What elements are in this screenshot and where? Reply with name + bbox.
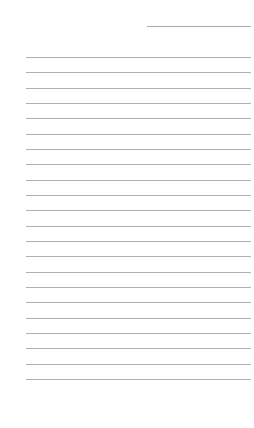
ruled-line <box>26 364 251 365</box>
ruled-line <box>26 57 251 58</box>
ruled-line <box>26 164 251 165</box>
ruled-line <box>26 180 251 181</box>
ruled-line <box>26 272 251 273</box>
ruled-line <box>26 195 251 196</box>
ruled-line <box>26 333 251 334</box>
ruled-line <box>26 72 251 73</box>
ruled-line <box>26 210 251 211</box>
ruled-line <box>26 287 251 288</box>
ruled-line <box>26 134 251 135</box>
ruled-line <box>26 256 251 257</box>
ruled-line <box>26 241 251 242</box>
ruled-line <box>26 226 251 227</box>
ruled-line <box>26 149 251 150</box>
ruled-line <box>26 379 251 380</box>
ruled-line <box>26 118 251 119</box>
lined-paper-page <box>0 0 254 428</box>
ruled-line <box>26 88 251 89</box>
ruled-line <box>26 302 251 303</box>
date-line <box>147 26 251 27</box>
ruled-line <box>26 348 251 349</box>
ruled-line <box>26 318 251 319</box>
ruled-line <box>26 103 251 104</box>
